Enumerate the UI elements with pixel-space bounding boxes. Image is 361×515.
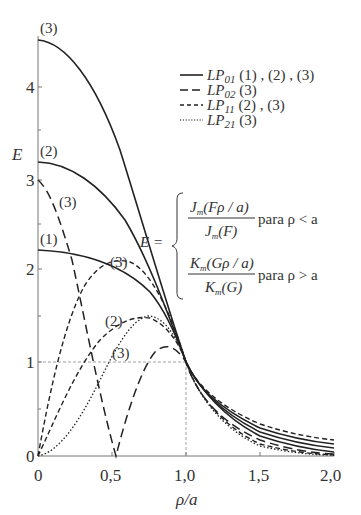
- annotation-lp01-1: (1): [40, 231, 58, 248]
- x-tick-1-5: 1,5: [248, 466, 269, 485]
- formula-condition-1: para ρ < a: [258, 211, 318, 227]
- x-tick-2-0: 2,0: [320, 466, 341, 485]
- x-tick-1-0: 1,0: [174, 466, 195, 485]
- mode-field-chart: 0 1 2 3 4 0 0,5 1,0 1,5 2,0 E ρ/a (3) (2…: [0, 0, 361, 515]
- brace-icon: [172, 193, 183, 299]
- formula-num-1: Jm(Fρ / a): [190, 199, 249, 217]
- y-tick-4: 4: [26, 78, 35, 97]
- y-tick-labels: 0 1 2 3 4: [26, 78, 35, 466]
- formula-lhs: E =: [139, 234, 163, 250]
- x-tick-labels: 0 0,5 1,0 1,5 2,0: [34, 466, 341, 485]
- formula-num-2: Km(Gρ / a): [189, 255, 254, 273]
- annotation-lp11-3: (3): [110, 254, 128, 271]
- y-tick-2: 2: [26, 260, 35, 279]
- formula-den-1: Jm(F): [205, 223, 237, 241]
- curve-annotations: (3) (2) (3) (1) (3) (2) (3): [40, 20, 130, 362]
- annotation-lp01-3: (3): [40, 20, 58, 37]
- curves: [38, 40, 334, 452]
- legend: LP01 (1) , (2) , (3) LP02 (3) LP11 (2) ,…: [180, 67, 314, 130]
- y-axis-label: E: [11, 145, 23, 164]
- annotation-lp01-2: (2): [40, 143, 58, 160]
- x-axis-label: ρ/a: [175, 490, 197, 509]
- annotation-lp02-3: (3): [59, 194, 77, 211]
- curve-lp11-2: [38, 318, 334, 456]
- annotation-lp21-3: (3): [112, 345, 130, 362]
- x-tick-0: 0: [34, 466, 43, 485]
- y-tick-3: 3: [26, 171, 35, 190]
- y-tick-1: 1: [26, 353, 35, 372]
- formula-condition-2: para ρ > a: [258, 267, 318, 283]
- formula-den-2: Km(G): [204, 279, 242, 297]
- annotation-lp11-2: (2): [105, 313, 123, 330]
- curve-lp11-3: [38, 261, 334, 456]
- x-tick-0-5: 0,5: [100, 466, 121, 485]
- curve-lp01-2: [38, 162, 334, 448]
- y-tick-0: 0: [26, 447, 35, 466]
- field-formula: E = Jm(Fρ / a) Jm(F) para ρ < a Km(Gρ / …: [139, 193, 318, 299]
